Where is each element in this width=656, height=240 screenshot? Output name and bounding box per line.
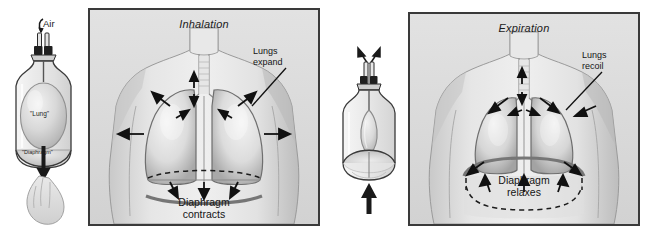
hand-pulling-icon: [27, 176, 64, 224]
callout-line-1: Lungs: [253, 46, 283, 57]
panel-inhalation: Inhalation Lungs expand Diaphragm contra…: [88, 8, 320, 226]
air-out-arrows-icon: [358, 48, 380, 64]
caption-line-1: Diaphragm: [410, 174, 638, 186]
jar-neck-collar-2: [357, 84, 381, 90]
bell-jar-model-inhalation: Air "Lung" "Diaphragm": [0, 0, 88, 240]
panel-expiration: Expiration Lungs recoil Diaphragm relaxe…: [408, 12, 640, 226]
model-lung-label: "Lung": [30, 110, 49, 117]
caption-diaphragm-contracts: Diaphragm contracts: [90, 196, 318, 220]
diaphragm-up-arrow-icon: [361, 183, 377, 214]
jar-stopper: [34, 46, 53, 55]
caption-line-2: relaxes: [410, 186, 638, 198]
callout-lungs-expand: Lungs expand: [253, 46, 283, 68]
caption-line-1: Diaphragm: [90, 196, 318, 208]
jar-stopper-2: [360, 76, 378, 84]
jar-neck-collar: [31, 55, 56, 61]
callout-line-2: expand: [253, 57, 283, 68]
bell-jar-inhalation-drawing: [0, 0, 88, 240]
caption-line-2: contracts: [90, 208, 318, 220]
callout-line-2: recoil: [582, 61, 607, 72]
bell-jar-model-expiration: [330, 0, 408, 240]
panel-title-inhalation: Inhalation: [90, 18, 318, 30]
callout-line-1: Lungs: [582, 50, 607, 61]
inhalation-torso-illustration: [90, 10, 318, 224]
callout-lungs-recoil: Lungs recoil: [582, 50, 607, 72]
panel-title-expiration: Expiration: [410, 22, 638, 34]
breathing-mechanics-figure: Air "Lung" "Diaphragm": [0, 0, 656, 240]
air-label: Air: [43, 18, 55, 29]
model-diaphragm-label: "Diaphragm": [22, 149, 53, 155]
bell-jar-expiration-drawing: [330, 0, 408, 240]
caption-diaphragm-relaxes: Diaphragm relaxes: [410, 174, 638, 198]
